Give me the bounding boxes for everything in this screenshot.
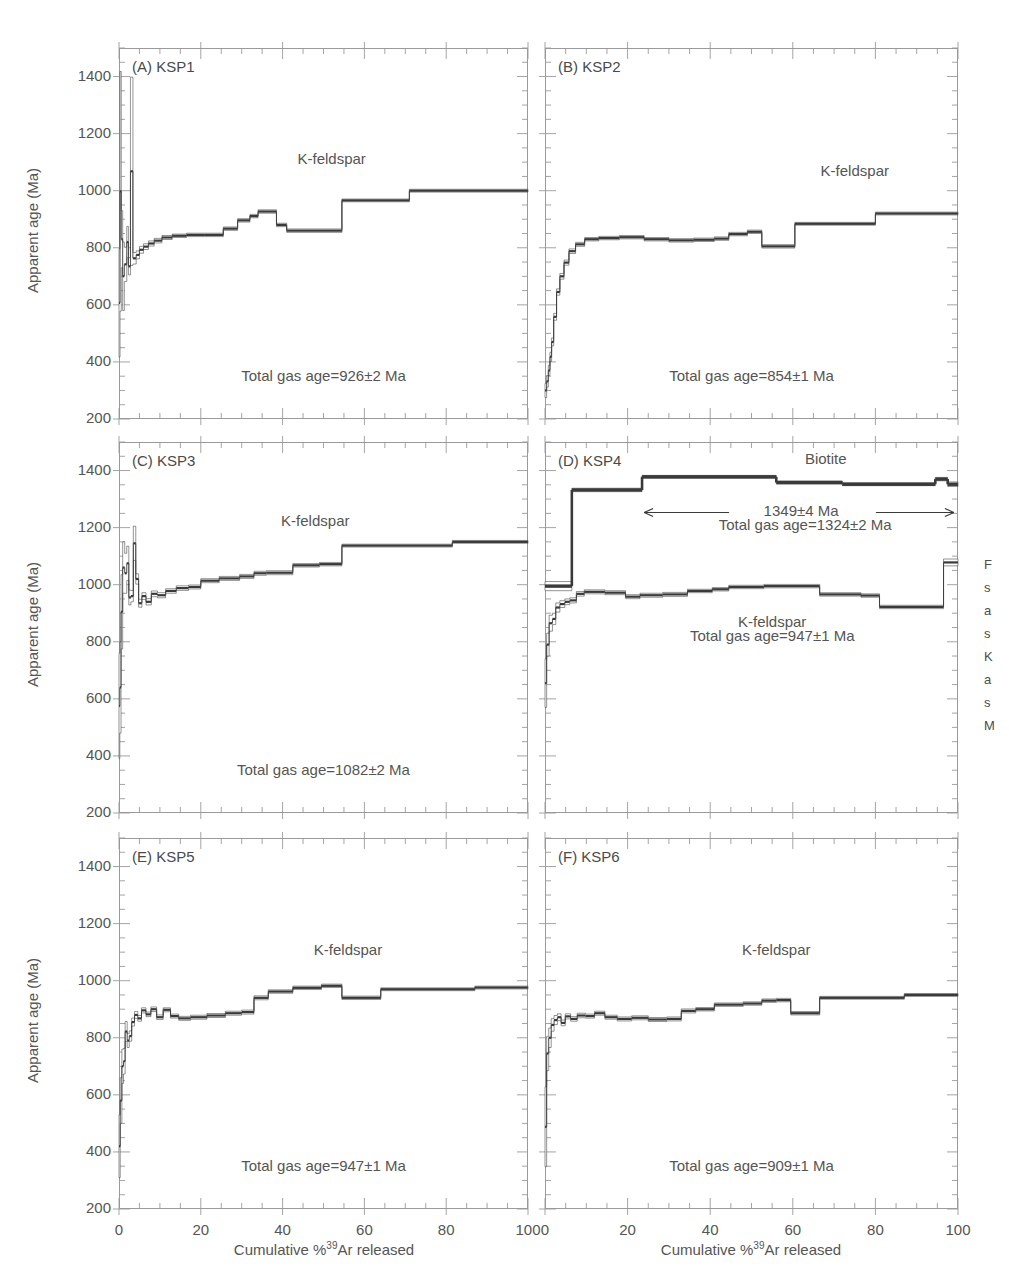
x-tick-label: 100 [933, 1221, 983, 1238]
panel-title-d: (D) KSP4 [558, 452, 621, 469]
x-tick-label: 20 [603, 1221, 653, 1238]
caption-line: K [984, 645, 1009, 668]
x-axis-label-suffix: Ar released [337, 1241, 414, 1258]
mineral-label-a: K-feldspar [242, 150, 422, 167]
y-tick-label: 200 [53, 803, 111, 820]
y-tick-label: 400 [53, 352, 111, 369]
total-gas-age-d: Total gas age=947±1 Ma [682, 627, 862, 644]
mineral-label-c: K-feldspar [225, 512, 405, 529]
panel-d: (D) KSP4K-feldsparTotal gas age=947±1 Ma… [545, 442, 958, 813]
x-axis-label-suffix: Ar released [764, 1241, 841, 1258]
x-tick-label: 60 [339, 1221, 389, 1238]
y-tick-label: 1000 [53, 181, 111, 198]
x-tick-label: 40 [258, 1221, 308, 1238]
series-k-feldspar [119, 71, 528, 357]
biotite-total-gas-age: Total gas age=1324±2 Ma [715, 516, 895, 533]
y-tick-label: 200 [53, 409, 111, 426]
x-tick-label: 60 [768, 1221, 818, 1238]
running-head [230, 0, 930, 12]
x-axis-label-isotope: 39 [753, 1240, 764, 1251]
caption-line: M [984, 714, 1009, 737]
total-gas-age-e: Total gas age=947±1 Ma [234, 1157, 414, 1174]
x-tick-label: 0 [94, 1221, 144, 1238]
caption-line: F [984, 553, 1009, 576]
x-axis-label-isotope: 39 [326, 1240, 337, 1251]
x-tick-label: 80 [850, 1221, 900, 1238]
panel-e: (E) KSP5K-feldsparTotal gas age=947±1 Ma [119, 838, 528, 1209]
x-axis-label-prefix: Cumulative % [661, 1241, 754, 1258]
caption-line: s [984, 622, 1009, 645]
panel-title-c: (C) KSP3 [132, 452, 195, 469]
x-axis-label-prefix: Cumulative % [234, 1241, 327, 1258]
y-tick-label: 600 [53, 689, 111, 706]
y-tick-label: 600 [53, 295, 111, 312]
y-tick-label: 800 [53, 1028, 111, 1045]
y-axis-label: Apparent age (Ma) [24, 141, 41, 321]
mineral-label-e: K-feldspar [258, 941, 438, 958]
total-gas-age-a: Total gas age=926±2 Ma [234, 367, 414, 384]
panel-b: (B) KSP2K-feldsparTotal gas age=854±1 Ma [545, 48, 958, 419]
panel-title-a: (A) KSP1 [132, 58, 195, 75]
caption-line: s [984, 691, 1009, 714]
figure-caption-cropped: FsasKasM [984, 553, 1009, 763]
x-axis-label: Cumulative %39Ar released [611, 1240, 891, 1258]
y-tick-label: 400 [53, 746, 111, 763]
y-tick-label: 1000 [53, 575, 111, 592]
panel-a: (A) KSP1K-feldsparTotal gas age=926±2 Ma [119, 48, 528, 419]
series-k-feldspar [119, 984, 528, 1177]
y-tick-label: 1400 [53, 67, 111, 84]
panel-title-e: (E) KSP5 [132, 848, 195, 865]
y-tick-label: 1200 [53, 124, 111, 141]
total-gas-age-f: Total gas age=909±1 Ma [662, 1157, 842, 1174]
total-gas-age-c: Total gas age=1082±2 Ma [234, 761, 414, 778]
y-tick-label: 600 [53, 1085, 111, 1102]
total-gas-age-b: Total gas age=854±1 Ma [662, 367, 842, 384]
caption-line: a [984, 668, 1009, 691]
x-axis-label: Cumulative %39Ar released [184, 1240, 464, 1258]
mineral-label-f: K-feldspar [686, 941, 866, 958]
caption-line: s [984, 576, 1009, 599]
y-tick-label: 1400 [53, 857, 111, 874]
x-tick-label: 0 [520, 1221, 570, 1238]
series-k-feldspar [545, 994, 958, 1167]
y-tick-label: 400 [53, 1142, 111, 1159]
figure-root: 200400600800100012001400(A) KSP1K-feldsp… [0, 0, 1009, 1286]
panel-title-b: (B) KSP2 [558, 58, 621, 75]
panel-f: (F) KSP6K-feldsparTotal gas age=909±1 Ma [545, 838, 958, 1209]
mineral-label-b: K-feldspar [765, 162, 945, 179]
y-tick-label: 1200 [53, 914, 111, 931]
y-axis-label: Apparent age (Ma) [24, 535, 41, 715]
y-tick-label: 1400 [53, 461, 111, 478]
panel-title-f: (F) KSP6 [558, 848, 620, 865]
panel-c: (C) KSP3K-feldsparTotal gas age=1082±2 M… [119, 442, 528, 813]
y-tick-label: 800 [53, 632, 111, 649]
x-tick-label: 40 [685, 1221, 735, 1238]
y-axis-label: Apparent age (Ma) [24, 931, 41, 1111]
y-tick-label: 200 [53, 1199, 111, 1216]
y-tick-label: 800 [53, 238, 111, 255]
biotite-label: Biotite [736, 450, 916, 467]
x-tick-label: 80 [421, 1221, 471, 1238]
x-tick-label: 20 [176, 1221, 226, 1238]
caption-line: a [984, 599, 1009, 622]
series-k-feldspar [119, 526, 528, 759]
y-tick-label: 1000 [53, 971, 111, 988]
y-tick-label: 1200 [53, 518, 111, 535]
